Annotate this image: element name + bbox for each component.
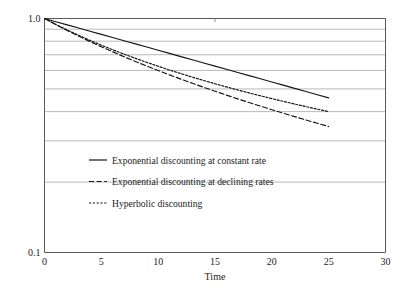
plot-frame: [45, 19, 386, 253]
x-tick-label: 0: [42, 256, 47, 267]
discounting-chart-figure: 051015202530 1.00.1 Time Exponential dis…: [0, 0, 405, 292]
x-axis-tick-labels: 051015202530: [42, 256, 391, 267]
x-tick-label: 25: [324, 256, 334, 267]
legend-label-3: Hyperbolic discounting: [112, 198, 203, 209]
x-tick-label: 10: [153, 256, 163, 267]
series-line-1: [45, 19, 329, 98]
chart-screenshot: 051015202530 1.00.1 Time Exponential dis…: [0, 0, 405, 292]
series-line-3: [45, 19, 329, 112]
legend-label-2: Exponential discounting at declining rat…: [112, 176, 274, 187]
data-series-group: [45, 19, 329, 127]
y-axis-tick-labels: 1.00.1: [28, 13, 41, 258]
x-tick-label: 15: [210, 256, 220, 267]
plot-canvas: 051015202530 1.00.1 Time Exponential dis…: [0, 0, 405, 292]
x-tick-label: 20: [267, 256, 277, 267]
x-tick-label: 5: [99, 256, 104, 267]
x-axis-title-label: Time: [205, 271, 226, 282]
x-axis-title: Time: [205, 271, 226, 282]
x-tick-label: 30: [381, 256, 391, 267]
series-line-2: [45, 19, 329, 127]
y-tick-label: 1.0: [28, 13, 41, 24]
legend-label-1: Exponential discounting at constant rate: [112, 155, 266, 166]
chart-legend: Exponential discounting at constant rate…: [89, 155, 274, 209]
y-tick-label: 0.1: [28, 247, 41, 258]
